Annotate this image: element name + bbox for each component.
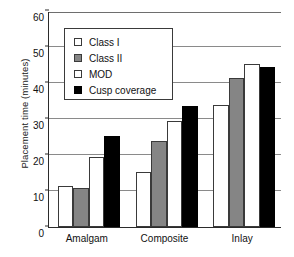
y-tick-mark-40 <box>45 82 49 83</box>
y-tick-mark-10 <box>45 190 49 191</box>
bar-inlay-class-ii <box>229 78 245 227</box>
legend-label: Class II <box>89 53 122 64</box>
legend-swatch-icon <box>74 70 82 78</box>
bar-amalgam-cusp-coverage <box>104 136 120 227</box>
bar-inlay-class-i <box>213 105 229 227</box>
bar-inlay-mod <box>244 64 260 227</box>
y-tick-mark-50 <box>45 46 49 47</box>
bar-amalgam-class-i <box>58 186 74 227</box>
x-axis-label-inlay: Inlay <box>232 233 253 244</box>
x-axis-label-amalgam: Amalgam <box>66 233 108 244</box>
legend-item-mod: MOD <box>74 66 172 82</box>
bar-composite-class-ii <box>151 141 167 227</box>
legend-label: MOD <box>89 69 112 80</box>
chart-legend: Class IClass IIMODCusp coverage <box>64 28 173 100</box>
plot-top-border <box>49 12 281 13</box>
bar-amalgam-class-ii <box>73 188 89 227</box>
y-tick-mark-0 <box>45 226 49 227</box>
legend-label: Class I <box>89 37 120 48</box>
bar-composite-class-i <box>136 172 152 227</box>
bar-chart: Placement time (minutes) 0102030405060 A… <box>0 0 294 257</box>
bar-inlay-cusp-coverage <box>260 67 276 227</box>
x-axis-label-composite: Composite <box>141 233 189 244</box>
y-tick-mark-20 <box>45 154 49 155</box>
legend-label: Cusp coverage <box>89 85 156 96</box>
bar-amalgam-mod <box>89 157 105 227</box>
legend-item-class-ii: Class II <box>74 50 172 66</box>
bar-composite-mod <box>167 121 183 227</box>
legend-swatch-icon <box>74 54 82 62</box>
y-axis-title: Placement time (minutes) <box>19 14 30 214</box>
legend-item-class-i: Class I <box>74 34 172 50</box>
y-tick-mark-60 <box>45 10 49 11</box>
bar-composite-cusp-coverage <box>182 106 198 227</box>
legend-item-cusp-coverage: Cusp coverage <box>74 82 172 98</box>
legend-swatch-icon <box>74 86 82 94</box>
y-tick-mark-30 <box>45 118 49 119</box>
legend-swatch-icon <box>74 38 82 46</box>
